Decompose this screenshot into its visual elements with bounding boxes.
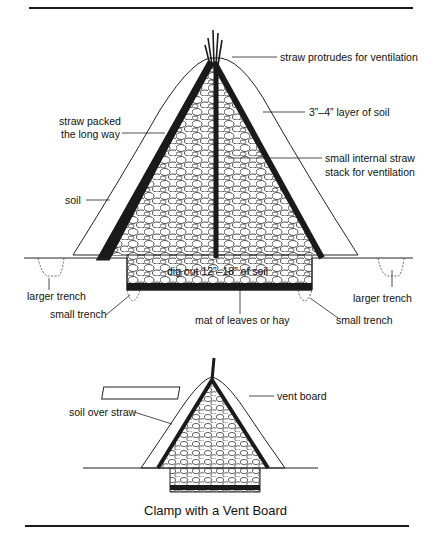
- label-straw-packed-line2: the long way: [61, 128, 120, 140]
- label-larger-trench-left: larger trench: [27, 290, 86, 302]
- label-soil-over-straw: soil over straw: [69, 406, 136, 418]
- label-internal-stack-line2: stack for ventilation: [325, 166, 415, 178]
- label-straw-protrudes: straw protrudes for ventilation: [280, 51, 418, 63]
- label-larger-trench-right: larger trench: [353, 292, 412, 304]
- label-dig-out: dig out 12”–18” of soil: [167, 265, 268, 277]
- label-internal-stack-line1: small internal straw: [325, 152, 415, 164]
- label-soil: soil: [65, 194, 81, 206]
- inset-caption: Clamp with a Vent Board: [144, 503, 287, 518]
- label-straw-packed-line1: straw packed: [59, 115, 121, 127]
- label-small-trench-left: small trench: [50, 308, 107, 320]
- label-soil-layer: 3”–4” layer of soil: [309, 106, 390, 118]
- label-mat: mat of leaves or hay: [195, 314, 290, 326]
- label-small-trench-right: small trench: [336, 314, 393, 326]
- label-vent-board: vent board: [277, 390, 327, 402]
